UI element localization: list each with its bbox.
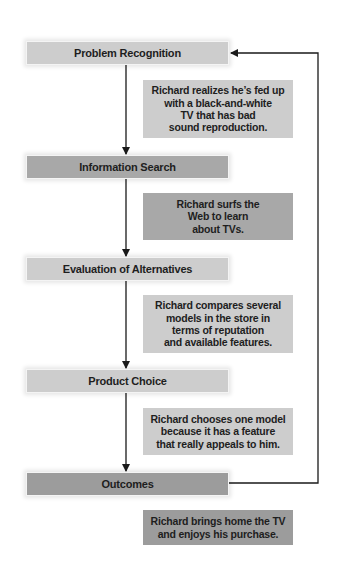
note-text: Richard chooses one model because it has… bbox=[150, 413, 285, 450]
note-product-choice: Richard chooses one model because it has… bbox=[143, 408, 293, 455]
stage-label: Problem Recognition bbox=[74, 47, 181, 59]
stage-label: Outcomes bbox=[101, 478, 153, 490]
stage-label: Product Choice bbox=[88, 375, 167, 387]
stage-evaluation-of-alternatives: Evaluation of Alternatives bbox=[26, 257, 229, 281]
stage-information-search: Information Search bbox=[26, 155, 229, 179]
stage-problem-recognition: Problem Recognition bbox=[26, 41, 229, 65]
stage-label: Information Search bbox=[79, 161, 176, 173]
stage-label: Evaluation of Alternatives bbox=[63, 263, 192, 275]
note-problem-recognition: Richard realizes he’s fed up with a blac… bbox=[143, 80, 293, 138]
note-text: Richard brings home the TV and enjoys hi… bbox=[151, 515, 286, 540]
note-outcomes: Richard brings home the TV and enjoys hi… bbox=[143, 510, 293, 545]
stage-product-choice: Product Choice bbox=[26, 369, 229, 393]
note-text: Richard compares several models in the s… bbox=[155, 299, 281, 349]
stage-outcomes: Outcomes bbox=[26, 472, 229, 496]
note-information-search: Richard surfs the Web to learn about TVs… bbox=[143, 193, 293, 240]
note-text: Richard realizes he’s fed up with a blac… bbox=[152, 84, 285, 134]
note-evaluation-of-alternatives: Richard compares several models in the s… bbox=[143, 295, 293, 353]
note-text: Richard surfs the Web to learn about TVs… bbox=[177, 198, 260, 235]
